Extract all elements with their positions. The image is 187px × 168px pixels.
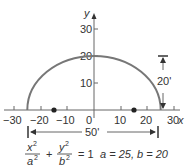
- equation-parameters: a = 25, b = 20: [100, 148, 169, 160]
- x-tick-label: 20: [140, 114, 152, 126]
- equation-x-denominator: a: [27, 155, 33, 167]
- y-axis: [92, 13, 99, 118]
- equation-exponent: 2: [66, 154, 70, 161]
- x-tick-label: 0: [86, 114, 92, 126]
- y-axis-arrow-icon: [92, 13, 97, 19]
- equation-exponent: 2: [65, 140, 69, 147]
- focus-point-left: [51, 107, 56, 112]
- ellipse-equation: x 2 a 2 + y 2 b 2 = 1 a = 25, b = 20: [25, 140, 169, 167]
- y-axis-label: y: [83, 7, 91, 19]
- y-tick-label: 10: [80, 77, 92, 89]
- semi-ellipse-diagram: y x 30 20 10 −30 −20 −10 0 10 20 30 20' …: [0, 0, 187, 168]
- x-tick-label: 10: [114, 114, 126, 126]
- x-tick-label: −10: [56, 114, 75, 126]
- equation-y-denominator: b: [59, 155, 65, 167]
- equation-equals: = 1: [78, 148, 94, 160]
- height-dimension-label: 20': [157, 75, 171, 87]
- equation-x-numerator: x: [26, 141, 33, 153]
- x-tick-label: −20: [30, 114, 49, 126]
- focus-point-right: [131, 107, 136, 112]
- x-axis: [4, 106, 180, 110]
- x-tick-label: 30: [167, 114, 179, 126]
- equation-exponent: 2: [34, 154, 38, 161]
- equation-exponent: 2: [33, 140, 37, 147]
- y-tick-label: 30: [80, 23, 92, 35]
- x-tick-label: −30: [3, 114, 22, 126]
- equation-plus: +: [46, 148, 52, 160]
- width-dimension-label: 50': [85, 126, 99, 138]
